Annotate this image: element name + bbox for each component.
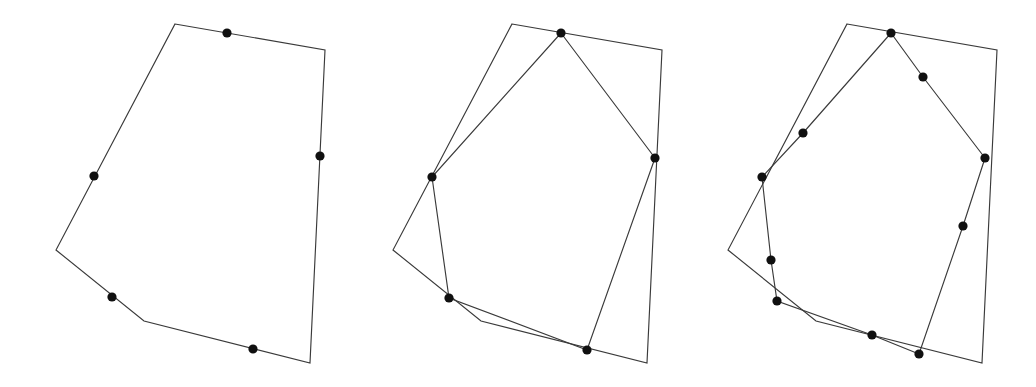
panel-3-vertex-dot-9 bbox=[757, 172, 766, 181]
panel-2-vertex-dot-5 bbox=[427, 172, 436, 181]
panel-2-vertex-dot-3 bbox=[582, 345, 591, 354]
panel-3-vertex-dot-3 bbox=[980, 153, 989, 162]
panel-1-vertex-dot-2 bbox=[315, 151, 324, 160]
panel-1-vertex-dot-5 bbox=[89, 171, 98, 180]
panel-3-vertex-dot-7 bbox=[772, 296, 781, 305]
figure-background bbox=[0, 0, 1036, 387]
panel-2-vertex-dot-2 bbox=[650, 153, 659, 162]
panel-1-vertex-dot-1 bbox=[222, 28, 231, 37]
polygon-approximation-figure bbox=[0, 0, 1036, 387]
panel-3-vertex-dot-1 bbox=[886, 28, 895, 37]
panel-2-vertex-dot-4 bbox=[444, 293, 453, 302]
panel-3-vertex-dot-5 bbox=[914, 349, 923, 358]
panel-1-vertex-dot-3 bbox=[248, 344, 257, 353]
panel-3-vertex-dot-10 bbox=[798, 128, 807, 137]
panel-3-vertex-dot-4 bbox=[958, 221, 967, 230]
panel-3-vertex-dot-2 bbox=[918, 72, 927, 81]
panel-2-vertex-dot-1 bbox=[556, 28, 565, 37]
panel-3-vertex-dot-8 bbox=[766, 255, 775, 264]
figure-container bbox=[0, 0, 1036, 387]
panel-1-vertex-dot-4 bbox=[107, 292, 116, 301]
panel-3-vertex-dot-6 bbox=[867, 330, 876, 339]
